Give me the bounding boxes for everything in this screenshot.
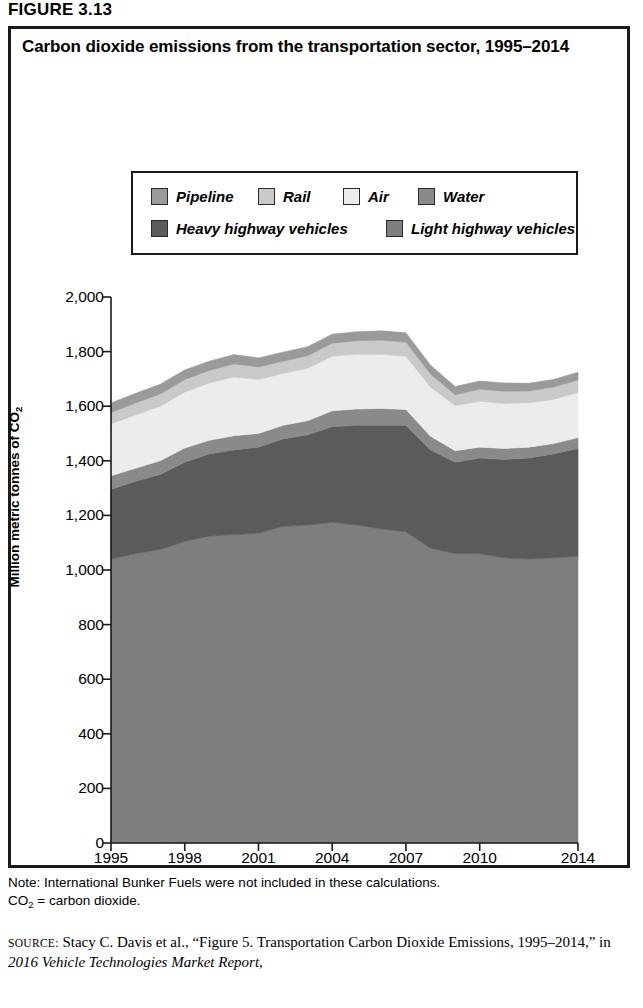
legend-item-rail[interactable]: Rail (258, 183, 311, 209)
legend-label-heavy-highway-vehicles: Heavy highway vehicles (176, 220, 348, 237)
legend-item-pipeline[interactable]: Pipeline (151, 183, 234, 209)
chart-title: Carbon dioxide emissions from the transp… (22, 36, 582, 58)
legend-row-1: Pipeline Rail Air Water (133, 183, 576, 213)
legend-swatch-heavy-highway-vehicles (151, 220, 168, 237)
source-text: Stacy C. Davis et al., “Figure 5. Transp… (59, 934, 611, 950)
chart-notes: Note: International Bunker Fuels were no… (8, 874, 608, 911)
figure-label: FIGURE 3.13 (8, 0, 112, 20)
legend-item-light-highway-vehicles[interactable]: Light highway vehicles (386, 215, 575, 241)
legend-label-light-highway-vehicles: Light highway vehicles (411, 220, 575, 237)
legend-label-pipeline: Pipeline (176, 188, 234, 205)
chart-source: SOURCE: Stacy C. Davis et al., “Figure 5… (8, 932, 622, 972)
chart-legend: Pipeline Rail Air Water Heavy highway ve… (131, 171, 578, 255)
legend-swatch-water (418, 188, 435, 205)
legend-row-2: Heavy highway vehicles Light highway veh… (133, 215, 576, 245)
legend-item-heavy-highway-vehicles[interactable]: Heavy highway vehicles (151, 215, 348, 241)
source-prefix: SOURCE: (8, 937, 59, 949)
note-line-2: CO2 = carbon dioxide. (8, 892, 608, 910)
legend-swatch-pipeline (151, 188, 168, 205)
legend-swatch-light-highway-vehicles (386, 220, 403, 237)
legend-swatch-rail (258, 188, 275, 205)
legend-item-water[interactable]: Water (418, 183, 484, 209)
legend-label-rail: Rail (283, 188, 311, 205)
legend-swatch-air (343, 188, 360, 205)
figure-frame (8, 26, 630, 868)
note-line-1: Note: International Bunker Fuels were no… (8, 874, 608, 892)
legend-label-water: Water (443, 188, 484, 205)
source-italic-title: 2016 Vehicle Technologies Market Report, (8, 954, 263, 970)
legend-label-air: Air (368, 188, 389, 205)
legend-item-air[interactable]: Air (343, 183, 389, 209)
